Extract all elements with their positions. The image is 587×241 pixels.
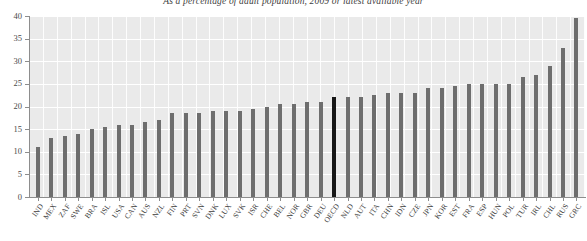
x-tick-mark <box>159 198 160 201</box>
x-label-slot: FIN <box>166 198 179 241</box>
x-tick-mark <box>401 198 402 201</box>
x-tick-mark <box>576 198 577 201</box>
bar[interactable] <box>574 18 578 197</box>
x-tick-label: USA <box>110 202 126 220</box>
bar[interactable] <box>319 102 323 197</box>
bar[interactable] <box>157 120 161 197</box>
bar[interactable] <box>521 77 525 197</box>
x-label-slot: TUR <box>516 198 529 241</box>
x-tick-label: MEX <box>41 202 58 221</box>
y-tick-label: 30 <box>0 57 22 66</box>
x-tick-mark <box>213 198 214 201</box>
bar[interactable] <box>332 97 336 197</box>
x-tick-label: DNK <box>203 202 220 221</box>
bar[interactable] <box>561 48 565 197</box>
bar[interactable] <box>467 84 471 197</box>
bar-slot <box>354 16 367 197</box>
x-tick-mark <box>105 198 106 201</box>
bar[interactable] <box>426 88 430 197</box>
x-label-slot: AUS <box>139 198 152 241</box>
x-label-slot: POL <box>502 198 515 241</box>
bar[interactable] <box>305 102 309 197</box>
bar[interactable] <box>197 113 201 197</box>
bar[interactable] <box>399 93 403 197</box>
x-tick-mark <box>536 198 537 201</box>
bar[interactable] <box>49 138 53 197</box>
bar-slot <box>462 16 475 197</box>
bar[interactable] <box>372 95 376 197</box>
bar-slot <box>179 16 192 197</box>
y-tick-label: 15 <box>0 125 22 134</box>
chart-title: As a percentage of adult population, 200… <box>0 0 587 6</box>
bar[interactable] <box>103 127 107 197</box>
bar[interactable] <box>117 125 121 197</box>
x-tick-label: FRA <box>460 202 476 220</box>
bar[interactable] <box>224 111 228 197</box>
bar-slot <box>327 16 340 197</box>
x-tick-mark <box>455 198 456 201</box>
bar[interactable] <box>63 136 67 197</box>
x-label-slot: CHL <box>543 198 556 241</box>
x-tick-label: GRC <box>567 202 584 220</box>
y-tick-label: 0 <box>0 193 22 202</box>
bar[interactable] <box>36 147 40 197</box>
bar[interactable] <box>413 93 417 197</box>
x-tick-mark <box>172 198 173 201</box>
bar[interactable] <box>480 84 484 197</box>
y-tick-label: 40 <box>0 12 22 21</box>
bar[interactable] <box>90 129 94 197</box>
bar[interactable] <box>440 88 444 197</box>
x-tick-label: BRA <box>82 202 99 220</box>
x-label-slot: AUT <box>354 198 367 241</box>
x-tick-mark <box>361 198 362 201</box>
bar[interactable] <box>534 75 538 197</box>
x-label-slot: KOR <box>435 198 448 241</box>
x-label-slot: BRA <box>85 198 98 241</box>
bar-slot <box>287 16 300 197</box>
bar[interactable] <box>76 134 80 197</box>
x-tick-label: AUT <box>352 202 369 220</box>
x-label-slot: ISL <box>98 198 111 241</box>
x-tick-mark <box>428 198 429 201</box>
bar[interactable] <box>548 66 552 197</box>
x-label-slot: JPN <box>422 198 435 241</box>
x-label-slot: CHE <box>260 198 273 241</box>
bar[interactable] <box>238 111 242 197</box>
bar[interactable] <box>143 122 147 197</box>
x-tick-mark <box>469 198 470 201</box>
x-tick-label: IDN <box>393 202 408 218</box>
bar[interactable] <box>292 104 296 197</box>
bar[interactable] <box>184 113 188 197</box>
bar[interactable] <box>494 84 498 197</box>
bar[interactable] <box>130 125 134 197</box>
bar[interactable] <box>265 107 269 198</box>
bar-slot <box>152 16 165 197</box>
y-tick-label: 5 <box>0 170 22 179</box>
bar[interactable] <box>453 86 457 197</box>
bar[interactable] <box>251 109 255 197</box>
bar-slot <box>233 16 246 197</box>
x-label-slot: IND <box>31 198 44 241</box>
bar[interactable] <box>170 113 174 197</box>
bar[interactable] <box>359 97 363 197</box>
bar-slot <box>449 16 462 197</box>
y-tick-label: 35 <box>0 34 22 43</box>
bar-slot <box>260 16 273 197</box>
bar[interactable] <box>386 93 390 197</box>
x-label-slot: CHN <box>381 198 394 241</box>
x-label-slot: HUN <box>489 198 502 241</box>
x-label-slot: MEX <box>44 198 57 241</box>
bar[interactable] <box>211 111 215 197</box>
x-tick-label: TUR <box>514 202 530 220</box>
x-tick-mark <box>65 198 66 201</box>
obesity-bar-chart-figure: As a percentage of adult population, 200… <box>0 0 587 241</box>
bar[interactable] <box>278 104 282 197</box>
x-label-slot: OECD <box>327 198 340 241</box>
bar-slot <box>422 16 435 197</box>
x-tick-mark <box>307 198 308 201</box>
x-tick-label: CZE <box>406 202 422 219</box>
bar[interactable] <box>507 84 511 197</box>
bar-slot <box>381 16 394 197</box>
bar[interactable] <box>346 97 350 197</box>
x-tick-mark <box>415 198 416 201</box>
